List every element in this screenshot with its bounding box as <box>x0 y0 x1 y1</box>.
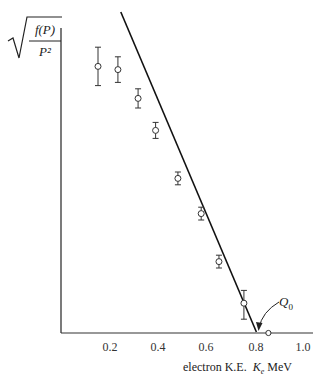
point-marker <box>95 63 101 69</box>
data-points <box>95 47 247 319</box>
data-point <box>95 47 101 85</box>
data-point <box>175 172 181 185</box>
x-label-symbol: K <box>253 360 261 374</box>
q0-subscript: 0 <box>288 302 293 312</box>
point-marker <box>175 175 181 181</box>
fit-line <box>121 12 257 332</box>
kurie-plot: f(P) P² 0.2 0.4 0.6 0.8 1.0 electron K.E… <box>0 0 329 383</box>
x-label-prefix: electron K.E. <box>183 360 247 374</box>
point-marker <box>216 259 222 265</box>
point-marker <box>115 67 121 73</box>
y-axis-label: f(P) P² <box>6 14 62 64</box>
x-label-unit: MeV <box>267 360 292 374</box>
data-point <box>216 255 222 268</box>
x-axis-label: electron K.E. Ke MeV <box>183 360 292 376</box>
endpoint-circle <box>266 330 271 335</box>
endpoint-marker <box>266 330 271 335</box>
data-point <box>135 89 141 108</box>
point-marker <box>241 300 247 306</box>
point-marker <box>198 211 204 217</box>
data-point <box>241 290 247 319</box>
x-tick-label: 0.8 <box>249 340 264 355</box>
data-point <box>115 57 121 83</box>
x-label-subscript: e <box>261 367 265 376</box>
x-tick-label: 0.6 <box>199 340 214 355</box>
y-label-denominator: P² <box>28 44 62 60</box>
q0-arrow <box>256 302 279 331</box>
q0-symbol: Q <box>279 294 288 309</box>
data-point <box>198 207 204 220</box>
fit-line-segment <box>121 12 257 332</box>
x-tick-label: 0.2 <box>103 340 118 355</box>
q0-annotation: Q0 <box>279 294 293 312</box>
point-marker <box>135 95 141 101</box>
point-marker <box>153 127 159 133</box>
y-label-numerator: f(P) <box>28 22 62 38</box>
x-tick-label: 1.0 <box>296 340 311 355</box>
x-tick-label: 0.4 <box>151 340 166 355</box>
data-point <box>153 122 159 138</box>
